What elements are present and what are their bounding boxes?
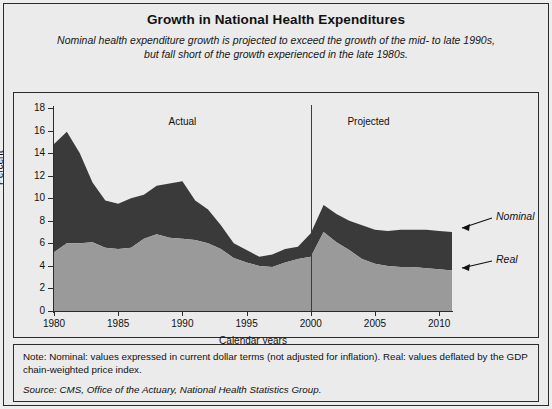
y-tick-label: 10 — [0, 192, 45, 203]
notes-block: Note: Nominal: values expressed in curre… — [13, 344, 539, 402]
x-tick-mark — [439, 311, 440, 316]
screenshot-root: Growth in National Health Expenditures N… — [0, 0, 552, 409]
y-tick-label: 0 — [0, 305, 45, 316]
source-text: Source: CMS, Office of the Actuary, Nati… — [23, 384, 529, 397]
y-tick-mark — [48, 288, 53, 289]
y-tick-label: 6 — [0, 237, 45, 248]
x-tick-mark — [182, 311, 183, 316]
y-tick-mark — [48, 243, 53, 244]
y-tick-mark — [48, 311, 53, 312]
x-axis-line — [53, 311, 453, 312]
y-tick-mark — [48, 266, 53, 267]
y-tick-mark — [48, 198, 53, 199]
plot-area — [54, 108, 452, 311]
area-chart-svg — [54, 108, 452, 311]
y-tick-mark — [48, 176, 53, 177]
x-tick-mark — [311, 311, 312, 316]
note-text: Note: Nominal: values expressed in curre… — [23, 351, 529, 376]
y-tick-label: 4 — [0, 260, 45, 271]
x-tick-label: 1980 — [43, 318, 65, 329]
y-tick-mark — [48, 108, 53, 109]
region-label-projected: Projected — [347, 116, 389, 127]
y-tick-mark — [48, 131, 53, 132]
y-tick-label: 16 — [0, 125, 45, 136]
x-tick-label: 2005 — [364, 318, 386, 329]
y-tick-label: 14 — [0, 147, 45, 158]
series-label-nominal: Nominal — [496, 210, 535, 222]
y-tick-label: 2 — [0, 282, 45, 293]
y-tick-label: 12 — [0, 170, 45, 181]
x-tick-label: 1985 — [107, 318, 129, 329]
x-tick-label: 2010 — [428, 318, 450, 329]
page-title: Growth in National Health Expenditures — [0, 12, 552, 27]
y-tick-mark — [48, 221, 53, 222]
x-tick-mark — [247, 311, 248, 316]
x-tick-label: 1995 — [235, 318, 257, 329]
x-tick-label: 2000 — [300, 318, 322, 329]
region-label-actual: Actual — [168, 116, 196, 127]
projection-divider-line — [311, 105, 312, 311]
y-tick-label: 8 — [0, 215, 45, 226]
y-tick-label: 18 — [0, 102, 45, 113]
x-tick-label: 1990 — [171, 318, 193, 329]
chart-subtitle: Nominal health expenditure growth is pro… — [56, 33, 496, 61]
x-tick-mark — [118, 311, 119, 316]
series-label-real: Real — [496, 253, 518, 265]
y-tick-mark — [48, 153, 53, 154]
x-tick-mark — [375, 311, 376, 316]
x-tick-mark — [54, 311, 55, 316]
